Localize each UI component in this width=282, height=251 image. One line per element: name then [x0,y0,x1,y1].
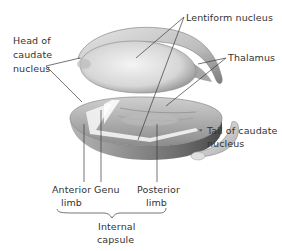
label-genu: Genu [94,183,120,196]
label-posterior-limb-line1: Posterior [137,183,180,196]
label-head-caudate-line1: Head of [13,34,51,47]
label-anterior-limb-line2: limb [61,196,82,209]
lentiform-nucleus-shape [77,41,196,93]
label-tail-caudate-line2: nucleus [207,137,244,150]
label-thalamus: Thalamus [228,51,275,64]
label-anterior-limb-line1: Anterior [52,183,91,196]
label-head-caudate-line2: caudate [13,48,52,61]
label-tail-caudate-line1: Tail of caudate [207,124,278,137]
label-internal-capsule-line2: capsule [97,233,134,246]
label-posterior-limb-line2: limb [146,196,167,209]
diagram-canvas: Head of caudate nucleus Lentiform nucleu… [0,0,282,251]
label-internal-capsule-line1: Internal [98,220,135,233]
label-lentiform-nucleus: Lentiform nucleus [186,11,273,24]
label-head-caudate-line3: nucleus [13,62,50,75]
internal-capsule-slab [70,97,222,160]
